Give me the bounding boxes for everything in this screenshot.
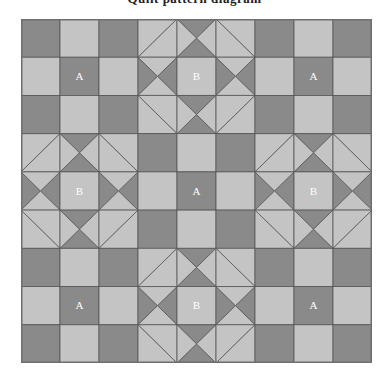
quilt-cell-solid-light bbox=[294, 325, 333, 363]
quilt-cell-hst-light-br bbox=[21, 210, 60, 248]
quilt-cell-hst-light-bl bbox=[216, 325, 255, 363]
quilt-cell-solid-light bbox=[255, 57, 294, 95]
quilt-cell-solid-light bbox=[21, 287, 60, 325]
patch-solid-light bbox=[294, 325, 333, 363]
quilt-cell-hst-light-br bbox=[255, 210, 294, 248]
patch-solid-dark bbox=[333, 95, 372, 133]
patch-solid-dark bbox=[255, 248, 294, 286]
patch-solid-light bbox=[333, 57, 372, 95]
block-label-a: A bbox=[76, 70, 84, 82]
quilt-cell-hourglass-h-dark bbox=[333, 172, 372, 210]
quilt-diagram: ABABABABA bbox=[21, 19, 372, 363]
quilt-cell-hst-light-bl bbox=[99, 210, 138, 248]
patch-solid-dark bbox=[333, 248, 372, 286]
quilt-cell-solid-dark bbox=[21, 95, 60, 133]
quilt-cell-hst-light-tl bbox=[333, 134, 372, 172]
quilt-svg: ABABABABA bbox=[21, 19, 372, 363]
patch-solid-light bbox=[99, 287, 138, 325]
patch-solid-light bbox=[60, 325, 99, 363]
block-label-b: B bbox=[310, 185, 317, 197]
quilt-cell-solid-dark bbox=[99, 95, 138, 133]
patch-solid-dark bbox=[138, 210, 177, 248]
quilt-cell-hourglass-h-dark bbox=[21, 172, 60, 210]
quilt-cell-solid-dark bbox=[99, 325, 138, 363]
quilt-cell-solid-light bbox=[99, 57, 138, 95]
patch-solid-dark bbox=[21, 325, 60, 363]
quilt-cell-solid-light bbox=[177, 210, 216, 248]
quilt-cell-hst-light-bl bbox=[333, 210, 372, 248]
quilt-cell-hourglass-h-dark bbox=[216, 57, 255, 95]
quilt-cell-solid-dark bbox=[255, 325, 294, 363]
patch-solid-dark bbox=[255, 19, 294, 57]
quilt-cell-hourglass-v-dark bbox=[177, 248, 216, 286]
quilt-cell-hst-light-br bbox=[138, 95, 177, 133]
quilt-cell-solid-light bbox=[294, 248, 333, 286]
quilt-cell-hourglass-v-dark bbox=[294, 210, 333, 248]
patch-solid-dark bbox=[21, 19, 60, 57]
page-title-text: Quilt pattern diagram bbox=[128, 0, 262, 5]
patch-solid-dark bbox=[333, 325, 372, 363]
quilt-cell-solid-light bbox=[60, 95, 99, 133]
patch-solid-dark bbox=[99, 248, 138, 286]
block-label-b: B bbox=[193, 70, 200, 82]
quilt-cell-hourglass-v-dark bbox=[60, 210, 99, 248]
patch-solid-light bbox=[255, 287, 294, 325]
quilt-cell-solid-light bbox=[333, 287, 372, 325]
block-label-a: A bbox=[310, 70, 318, 82]
quilt-cell-solid-dark bbox=[333, 95, 372, 133]
quilt-cell-hst-light-tr bbox=[138, 19, 177, 57]
quilt-cell-hst-light-br bbox=[138, 325, 177, 363]
quilt-cell-hst-light-tr bbox=[138, 248, 177, 286]
quilt-cell-solid-dark bbox=[333, 325, 372, 363]
quilt-cell-solid-light bbox=[60, 325, 99, 363]
patch-solid-dark bbox=[21, 95, 60, 133]
patch-solid-light bbox=[138, 172, 177, 210]
patch-solid-dark bbox=[99, 325, 138, 363]
patch-solid-light bbox=[333, 287, 372, 325]
quilt-cell-hourglass-h-dark bbox=[138, 287, 177, 325]
patch-solid-light bbox=[294, 95, 333, 133]
patch-solid-light bbox=[60, 248, 99, 286]
patch-solid-dark bbox=[333, 19, 372, 57]
quilt-cell-hourglass-h-dark bbox=[216, 287, 255, 325]
quilt-cell-solid-light bbox=[255, 287, 294, 325]
quilt-cell-solid-light bbox=[333, 57, 372, 95]
quilt-cell-hourglass-v-dark bbox=[60, 134, 99, 172]
patch-solid-dark bbox=[255, 95, 294, 133]
quilt-cell-hourglass-v-dark bbox=[177, 95, 216, 133]
quilt-cell-hourglass-h-dark bbox=[138, 57, 177, 95]
block-label-a: A bbox=[310, 299, 318, 311]
block-label-a: A bbox=[76, 299, 84, 311]
quilt-cell-hourglass-v-dark bbox=[294, 134, 333, 172]
quilt-cell-hst-light-bl bbox=[216, 95, 255, 133]
quilt-cell-hst-light-tr bbox=[255, 134, 294, 172]
block-label-b: B bbox=[76, 185, 83, 197]
quilt-cell-hst-light-tr bbox=[21, 134, 60, 172]
quilt-cell-hst-light-tl bbox=[216, 19, 255, 57]
quilt-cell-solid-dark bbox=[255, 248, 294, 286]
patch-solid-light bbox=[177, 210, 216, 248]
quilt-cell-solid-light bbox=[60, 248, 99, 286]
patch-solid-dark bbox=[255, 325, 294, 363]
quilt-cell-solid-dark bbox=[21, 248, 60, 286]
patch-solid-light bbox=[177, 134, 216, 172]
patch-solid-light bbox=[21, 287, 60, 325]
quilt-cell-solid-dark bbox=[138, 134, 177, 172]
quilt-cell-solid-dark bbox=[333, 19, 372, 57]
quilt-cell-solid-light bbox=[138, 172, 177, 210]
quilt-cell-solid-dark bbox=[21, 325, 60, 363]
patch-solid-light bbox=[21, 57, 60, 95]
patch-solid-dark bbox=[99, 95, 138, 133]
quilt-cell-solid-dark bbox=[99, 248, 138, 286]
block-label-b: B bbox=[193, 299, 200, 311]
block-label-a: A bbox=[193, 185, 201, 197]
patch-solid-light bbox=[294, 19, 333, 57]
patch-solid-light bbox=[216, 172, 255, 210]
quilt-cell-hourglass-h-dark bbox=[255, 172, 294, 210]
quilt-cell-solid-dark bbox=[255, 95, 294, 133]
quilt-cell-solid-dark bbox=[216, 134, 255, 172]
quilt-cell-hst-light-tl bbox=[216, 248, 255, 286]
patch-solid-dark bbox=[216, 210, 255, 248]
quilt-cell-hourglass-h-dark bbox=[99, 172, 138, 210]
quilt-cell-solid-light bbox=[21, 57, 60, 95]
